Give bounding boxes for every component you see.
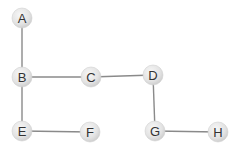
node-d: D: [143, 65, 163, 85]
node-label: H: [213, 125, 222, 140]
node-f: F: [80, 122, 100, 142]
node-h: H: [208, 122, 228, 142]
node-label: D: [148, 68, 157, 83]
node-label: B: [18, 70, 27, 85]
node-label: F: [86, 125, 94, 140]
node-label: E: [18, 124, 27, 139]
node-label: C: [86, 70, 95, 85]
node-label: A: [18, 11, 27, 26]
node-a: A: [12, 8, 32, 28]
nodes-layer: ABCDEFGH: [12, 8, 228, 142]
node-e: E: [12, 121, 32, 141]
node-label: G: [150, 124, 160, 139]
node-b: B: [12, 67, 32, 87]
node-c: C: [81, 67, 101, 87]
node-g: G: [145, 121, 165, 141]
graph-diagram: ABCDEFGH: [0, 0, 240, 152]
edges-layer: [22, 18, 218, 132]
